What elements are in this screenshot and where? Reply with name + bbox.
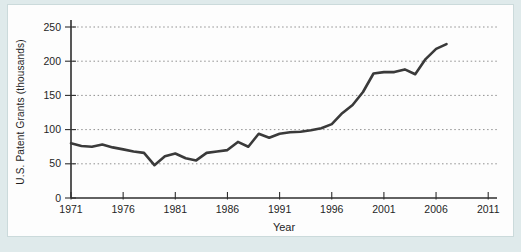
tick-marks	[65, 27, 488, 200]
x-tick-label-1991: 1991	[268, 203, 292, 215]
y-tick-label-200: 200	[43, 55, 61, 67]
patent-grants-series-line	[71, 44, 447, 165]
x-tick-label-2001: 2001	[372, 203, 396, 215]
gridlines	[73, 27, 497, 164]
y-tick-label-50: 50	[49, 157, 61, 169]
y-tick-labels: 050100150200250	[43, 21, 61, 204]
x-tick-label-1971: 1971	[59, 203, 83, 215]
y-axis-title: U.S. Patent Grants (thousands)	[15, 39, 26, 185]
y-tick-label-250: 250	[43, 21, 61, 33]
x-tick-labels: 197119761981198619911996200120062011	[59, 203, 499, 215]
x-tick-label-2006: 2006	[424, 203, 448, 215]
figure: 0501001502002501971197619811986199119962…	[0, 0, 521, 252]
x-tick-label-1996: 1996	[320, 203, 344, 215]
x-tick-label-1986: 1986	[216, 203, 240, 215]
patent-grants-line-chart: 0501001502002501971197619811986199119962…	[0, 0, 521, 252]
x-tick-label-1981: 1981	[164, 203, 188, 215]
x-tick-label-1976: 1976	[111, 203, 135, 215]
x-axis-title: Year	[273, 221, 295, 233]
x-tick-label-2011: 2011	[477, 203, 500, 215]
y-tick-label-100: 100	[43, 123, 61, 135]
axes	[71, 20, 497, 198]
y-tick-label-150: 150	[43, 89, 61, 101]
